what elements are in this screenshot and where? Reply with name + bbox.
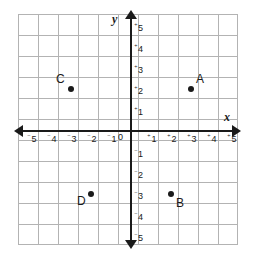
y-axis-line [130, 18, 132, 241]
y-tick-label: ⁺2 [134, 85, 143, 96]
y-axis-name: y [112, 12, 117, 27]
x-axis-line [22, 130, 234, 132]
x-axis-name: x [224, 110, 230, 125]
x-tick-label: ⁻4 [47, 133, 56, 144]
point-label-c: C [56, 73, 65, 85]
point-label-a: A [196, 73, 204, 85]
y-tick-label: ⁻3 [134, 190, 143, 201]
y-tick-label: ⁺1 [134, 106, 143, 117]
y-tick-label: ⁻5 [134, 232, 143, 243]
x-tick-label: ⁺5 [227, 133, 236, 144]
x-tick-label: ⁻3 [67, 133, 76, 144]
x-tick-label: ⁺4 [207, 133, 216, 144]
plotted-point-b [168, 191, 174, 197]
x-tick-label: ⁻5 [27, 133, 36, 144]
x-tick-label: ⁺2 [167, 133, 176, 144]
coordinate-plane-figure: x y 0 ⁻5⁻4⁻3⁻2⁻1⁺1⁺2⁺3⁺4⁺5 ⁺5⁺4⁺3⁺2⁺1⁻1⁻… [0, 0, 255, 260]
y-tick-label: ⁻1 [134, 148, 143, 159]
origin-label: 0 [118, 133, 123, 142]
plotted-point-a [188, 86, 194, 92]
x-tick-label: ⁺1 [147, 133, 156, 144]
plotted-point-d [88, 191, 94, 197]
y-tick-label: ⁻4 [134, 211, 143, 222]
x-tick-label: ⁻1 [107, 133, 116, 144]
x-tick-label: ⁻2 [87, 133, 96, 144]
x-tick-label: ⁺3 [187, 133, 196, 144]
x-axis-arrow-left-icon [14, 125, 23, 137]
y-tick-label: ⁻2 [134, 169, 143, 180]
plotted-point-c [68, 86, 74, 92]
point-label-d: D [77, 195, 86, 207]
y-axis-arrow-up-icon [125, 10, 137, 19]
y-tick-label: ⁺4 [134, 43, 143, 54]
y-tick-label: ⁺3 [134, 64, 143, 75]
y-tick-label: ⁺5 [134, 22, 143, 33]
point-label-b: B [176, 197, 184, 209]
